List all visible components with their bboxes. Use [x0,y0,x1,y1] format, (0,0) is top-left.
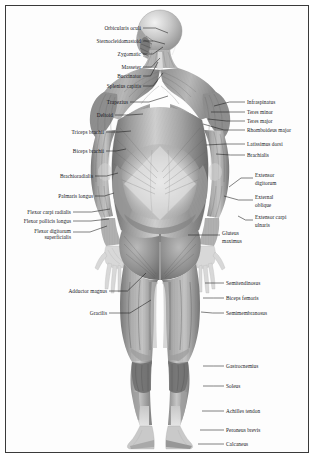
label-flexor-pollicis-longus: Flexor pollicis longus [24,219,71,225]
label-zygomatic: Zygomatic [118,52,141,58]
label-flexor-carpi-radialis: Flexor carpi radialis [27,210,71,216]
label-external: External [255,195,273,201]
label-soleus: Soleus [226,384,240,390]
label-brachioradialis: Brachioradialis [60,174,93,180]
label-palmaris-longus: Palmaris longus [58,194,93,200]
label-orbicularis-oculi: Orbicularis oculi [104,26,141,32]
label-achilles-tendon: Achilles tendon [226,409,260,415]
label-extensor: Extensor [255,173,274,179]
label-triceps-brachii: Triceps brachii [72,130,104,136]
label-ulnaris: ulnaris [255,223,270,229]
label-superficialis: superficialis [44,235,71,241]
label-biceps-femoris: Biceps femoris [226,296,259,302]
label-peroneus-brevis: Peroneus brevis [226,428,260,434]
label-teres-major: Teres major [247,119,273,125]
label-digitorum: digitorum [255,181,276,187]
label-calcaneus: Calcaneus [226,442,248,448]
label-deltoid: Deltoid [97,113,113,119]
leader-extensor-carpi [238,216,253,220]
label-sternocleidomastoid: Sternocleidomastoid [97,39,142,45]
anatomy-plate: Orbicularis oculiSternocleidomastoidZygo… [0,0,316,460]
label-maximus: maximus [222,239,242,245]
label-buccinator: Buccinator [117,74,141,80]
label-brachialis: Brachialis [247,153,269,159]
label-latissimus-dorsi: Latissimus dorsi [247,142,283,148]
leader-semimembranosus [201,312,224,313]
label-splenius-capitis: Splenius capitis [107,84,141,90]
label-masseter: Masseter [121,65,141,71]
label-trapezius: Trapezius [107,100,128,106]
label-extensor-carpi: Extensor carpi [255,215,286,221]
label-teres-minor: Teres minor [247,110,273,116]
label-oblique: oblique [255,203,271,209]
leader-extensor [229,178,253,187]
label-gracilis: Gracilis [90,311,107,317]
label-semitendinosus: Semitendinosus [226,281,260,287]
label-gastrocnemius: Gastrocnemius [226,364,258,370]
label-semimembranosus: Semimembranosus [226,311,267,317]
leader-external [224,196,253,200]
label-biceps-brachii: Biceps brachii [73,149,104,155]
label-gluteus: Gluteus [222,231,239,237]
label-infraspinatus: Infraspinatus [247,100,275,106]
label-adductor-magnus: Adductor magnus [68,289,107,295]
label-rhomboideus-major: Rhomboideus major [247,128,291,134]
